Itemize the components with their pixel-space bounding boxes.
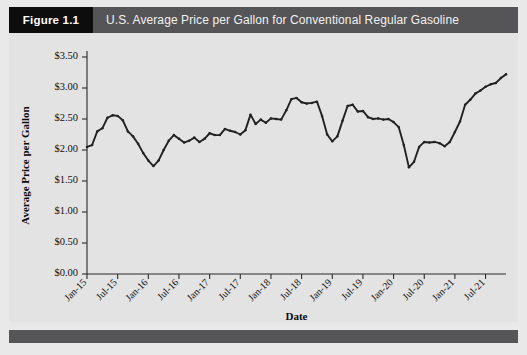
data-point (428, 141, 431, 144)
data-point (280, 118, 283, 121)
figure-number-tag: Figure 1.1 (9, 7, 93, 33)
data-point (321, 115, 324, 118)
data-point (423, 141, 426, 144)
data-point (127, 130, 130, 133)
y-axis-title: Average Price per Gallon (19, 106, 31, 224)
data-point (489, 83, 492, 86)
data-point (219, 134, 222, 137)
data-point (351, 103, 354, 106)
data-point (188, 139, 191, 142)
data-point (275, 118, 278, 121)
y-tick-label: $0.50 (54, 236, 78, 247)
price-series-markers (86, 73, 508, 169)
data-point (397, 126, 400, 129)
data-point (377, 117, 380, 120)
data-point (270, 117, 273, 120)
figure-body: $0.00$0.50$1.00$1.50$2.00$2.50$3.00$3.50… (9, 33, 518, 322)
y-tick-label: $2.50 (54, 112, 78, 123)
data-point (137, 143, 140, 146)
data-point (198, 141, 201, 144)
data-point (208, 132, 211, 135)
data-point (316, 100, 319, 103)
data-point (479, 89, 482, 92)
x-axis-group: Jan-15Jul-15Jan-16Jul-16Jan-17Jul-17Jan-… (62, 274, 487, 303)
data-point (193, 136, 196, 139)
data-point (265, 121, 268, 124)
figure-container: Figure 1.1 U.S. Average Price per Gallon… (0, 0, 527, 355)
data-point (244, 129, 247, 132)
data-point (116, 115, 119, 118)
x-tick-label: Jul-20 (400, 277, 425, 302)
data-point (357, 110, 360, 113)
data-point (183, 141, 186, 144)
data-point (474, 92, 477, 95)
y-tick-label: $2.00 (54, 143, 78, 154)
x-tick-label: Jan-19 (307, 277, 334, 304)
data-point (331, 140, 334, 143)
data-point (505, 73, 508, 76)
x-tick-marks (87, 274, 486, 279)
y-tick-label: $1.50 (54, 174, 78, 185)
data-point (326, 133, 329, 136)
data-point (500, 77, 503, 80)
y-tick-marks (82, 57, 87, 274)
data-point (346, 105, 349, 108)
x-axis-title: Date (286, 310, 308, 322)
data-point (96, 130, 99, 133)
data-point (239, 133, 242, 136)
y-tick-label: $3.00 (54, 81, 78, 92)
data-point (362, 110, 365, 113)
y-tick-label: $0.00 (54, 267, 78, 278)
y-tick-label: $3.50 (54, 50, 78, 61)
data-point (392, 121, 395, 124)
data-point (254, 123, 257, 126)
x-tick-label: Jan-20 (368, 277, 395, 304)
data-point (449, 141, 452, 144)
x-tick-label: Jan-16 (123, 277, 150, 304)
data-point (203, 138, 206, 141)
figure-header: Figure 1.1 U.S. Average Price per Gallon… (9, 7, 518, 33)
x-tick-label: Jul-21 (462, 277, 487, 302)
x-tick-label: Jul-17 (216, 277, 241, 302)
x-tick-label: Jan-21 (430, 277, 457, 304)
x-tick-label: Jul-16 (155, 277, 180, 302)
figure-footer-bar (9, 330, 518, 343)
data-point (438, 142, 441, 145)
data-point (413, 161, 416, 164)
data-point (142, 152, 145, 155)
data-point (454, 131, 457, 134)
x-tick-label: Jan-17 (184, 277, 211, 304)
data-point (418, 146, 421, 149)
data-point (382, 118, 385, 121)
data-point (173, 134, 176, 137)
data-point (101, 127, 104, 130)
data-point (122, 119, 125, 122)
data-point (86, 146, 89, 149)
data-point (443, 145, 446, 148)
data-point (152, 165, 155, 168)
data-point (433, 141, 436, 144)
x-tick-label: Jan-15 (62, 277, 89, 304)
data-point (295, 97, 298, 100)
data-point (157, 159, 160, 162)
chart-plot-area: $0.00$0.50$1.00$1.50$2.00$2.50$3.00$3.50… (9, 33, 518, 322)
x-tick-label: Jul-19 (339, 277, 364, 302)
y-tick-label: $1.00 (54, 205, 78, 216)
data-point (408, 166, 411, 169)
data-point (311, 102, 314, 105)
figure-title: U.S. Average Price per Gallon for Conven… (93, 7, 518, 33)
data-point (285, 109, 288, 112)
data-point (336, 135, 339, 138)
data-point (387, 118, 390, 121)
data-point (91, 144, 94, 147)
data-point (464, 103, 467, 106)
data-point (229, 130, 232, 133)
x-tick-label: Jul-15 (94, 277, 119, 302)
data-point (147, 159, 150, 162)
data-point (300, 101, 303, 104)
data-point (249, 113, 252, 116)
x-tick-labels: Jan-15Jul-15Jan-16Jul-16Jan-17Jul-17Jan-… (62, 277, 487, 304)
data-point (305, 102, 308, 105)
data-point (290, 98, 293, 101)
data-point (367, 116, 370, 119)
